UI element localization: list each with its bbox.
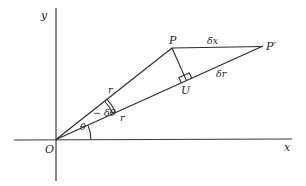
minus-delta-theta-label: − δθ [93,107,116,118]
segment-PU [172,48,187,81]
ray-OP-prime [56,46,263,140]
origin-label: O [45,143,54,156]
theta-label: θ [80,121,86,132]
point-P-prime-label: P′ [265,40,276,53]
diagram-canvas: y x O P P′ U δx δr r r − δθ θ [0,0,306,186]
delta-x-label: δx [207,35,219,46]
ray-OP [56,48,172,140]
point-U-label: U [181,84,191,97]
theta-arc [88,125,91,139]
polar-diagram: y x O P P′ U δx δr r r − δθ θ [0,0,306,186]
r-lower-label: r [120,112,126,123]
y-axis-label: y [40,9,48,22]
point-P-label: P [168,34,177,47]
r-upper-label: r [108,84,114,95]
segment-PP-prime [172,47,263,49]
x-axis-label: x [284,141,291,154]
delta-r-label: δr [216,68,228,79]
